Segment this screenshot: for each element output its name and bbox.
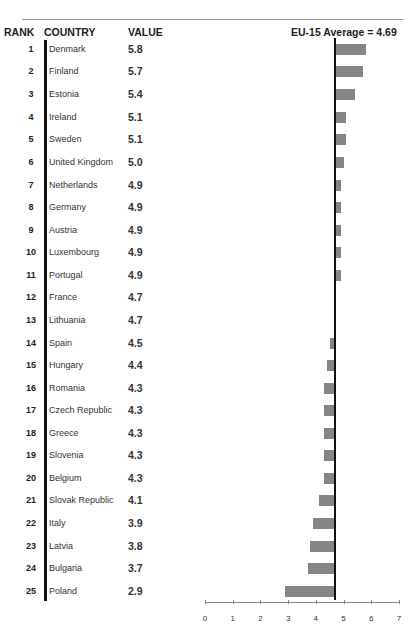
country-cell: Slovenia	[49, 450, 84, 460]
value-cell: 4.9	[128, 179, 143, 191]
table-row: 7Netherlands4.9	[0, 179, 420, 193]
rank-cell: 6	[22, 157, 40, 167]
table-row: 24Bulgaria3.7	[0, 562, 420, 576]
deviation-bar	[313, 518, 335, 529]
table-row: 9Austria4.9	[0, 224, 420, 238]
country-cell: Estonia	[49, 89, 79, 99]
table-row: 17Czech Republic4.3	[0, 404, 420, 418]
deviation-bar	[310, 541, 335, 552]
value-cell: 5.0	[128, 156, 143, 168]
table-row: 13Lithuania4.7	[0, 314, 420, 328]
country-cell: Sweden	[49, 134, 82, 144]
rank-cell: 2	[22, 66, 40, 76]
deviation-bar	[335, 44, 366, 55]
rank-cell: 15	[22, 360, 40, 370]
average-line	[334, 38, 336, 600]
country-cell: Austria	[49, 225, 77, 235]
value-cell: 4.7	[128, 291, 143, 303]
table-row: 23Latvia3.8	[0, 540, 420, 554]
table-row: 12France4.7	[0, 291, 420, 305]
value-cell: 3.8	[128, 540, 143, 552]
country-cell: Germany	[49, 202, 86, 212]
country-cell: Romania	[49, 383, 85, 393]
value-cell: 4.3	[128, 382, 143, 394]
rank-cell: 20	[22, 473, 40, 483]
x-tick-label: 4	[310, 614, 322, 623]
x-tick-label: 1	[227, 614, 239, 623]
rank-cell: 8	[22, 202, 40, 212]
country-cell: Poland	[49, 586, 77, 596]
deviation-bar	[335, 66, 363, 77]
rank-cell: 9	[22, 225, 40, 235]
rank-cell: 21	[22, 495, 40, 505]
rank-cell: 5	[22, 134, 40, 144]
country-cell: Bulgaria	[49, 563, 82, 573]
table-row: 8Germany4.9	[0, 201, 420, 215]
table-row: 15Hungary4.4	[0, 359, 420, 373]
value-cell: 4.5	[128, 337, 143, 349]
table-row: 10Luxembourg4.9	[0, 246, 420, 260]
value-cell: 4.9	[128, 269, 143, 281]
rank-cell: 24	[22, 563, 40, 573]
average-label: EU-15 Average = 4.69	[291, 26, 397, 38]
table-row: 5Sweden5.1	[0, 133, 420, 147]
table-row: 14Spain4.5	[0, 337, 420, 351]
country-cell: Netherlands	[49, 180, 98, 190]
country-cell: Slovak Republic	[49, 495, 114, 505]
x-tick-label: 2	[254, 614, 266, 623]
value-cell: 4.3	[128, 404, 143, 416]
value-cell: 5.4	[128, 88, 143, 100]
header-rank: RANK	[4, 26, 34, 38]
x-tick	[205, 600, 206, 604]
country-cell: Italy	[49, 518, 66, 528]
table-row: 22Italy3.9	[0, 517, 420, 531]
country-cell: United Kingdom	[49, 157, 113, 167]
value-cell: 2.9	[128, 585, 143, 597]
rank-cell: 10	[22, 247, 40, 257]
country-cell: Latvia	[49, 541, 73, 551]
table-row: 1Denmark5.8	[0, 43, 420, 57]
deviation-bar	[308, 563, 335, 574]
x-tick-label: 3	[282, 614, 294, 623]
value-cell: 4.9	[128, 201, 143, 213]
top-rule	[22, 19, 403, 20]
table-row: 20Belgium4.3	[0, 472, 420, 486]
country-cell: Finland	[49, 66, 79, 76]
rank-cell: 17	[22, 405, 40, 415]
rank-cell: 12	[22, 292, 40, 302]
deviation-bar	[335, 89, 355, 100]
table-row: 18Greece4.3	[0, 427, 420, 441]
header-country: COUNTRY	[44, 26, 96, 38]
value-cell: 4.3	[128, 427, 143, 439]
rank-cell: 22	[22, 518, 40, 528]
x-tick	[260, 600, 261, 604]
country-cell: Greece	[49, 428, 79, 438]
x-axis	[205, 602, 399, 603]
value-cell: 4.1	[128, 494, 143, 506]
rank-cell: 19	[22, 450, 40, 460]
value-cell: 4.3	[128, 472, 143, 484]
value-cell: 4.3	[128, 449, 143, 461]
value-cell: 4.9	[128, 224, 143, 236]
deviation-bar	[285, 586, 335, 597]
country-cell: Denmark	[49, 44, 86, 54]
rank-cell: 23	[22, 541, 40, 551]
country-cell: Spain	[49, 338, 72, 348]
rank-cell: 1	[22, 44, 40, 54]
deviation-bar	[335, 157, 344, 168]
x-tick	[233, 600, 234, 604]
rank-cell: 14	[22, 338, 40, 348]
table-row: 2Finland5.7	[0, 65, 420, 79]
value-cell: 5.1	[128, 111, 143, 123]
value-cell: 3.7	[128, 562, 143, 574]
table-row: 16Romania4.3	[0, 382, 420, 396]
table-row: 11Portugal4.9	[0, 269, 420, 283]
table-row: 4Ireland5.1	[0, 111, 420, 125]
rank-cell: 4	[22, 112, 40, 122]
table-row: 21Slovak Republic4.1	[0, 494, 420, 508]
rank-cell: 11	[22, 270, 40, 280]
x-tick	[288, 600, 289, 604]
country-cell: Luxembourg	[49, 247, 99, 257]
country-cell: Portugal	[49, 270, 83, 280]
table-row: 19Slovenia4.3	[0, 449, 420, 463]
